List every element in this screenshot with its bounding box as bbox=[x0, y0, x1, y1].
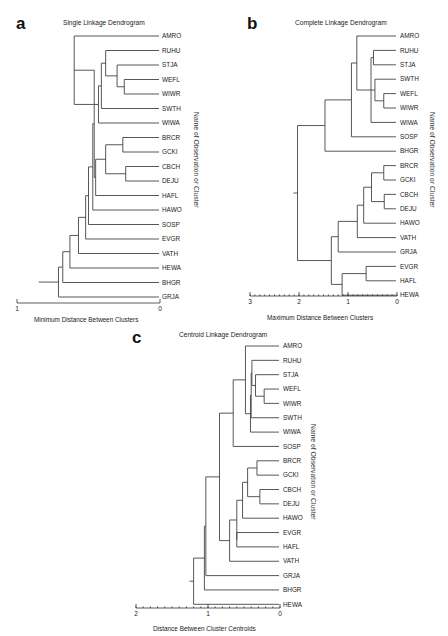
leaf-label: CBCH bbox=[400, 191, 418, 198]
leaf-label: SOSP bbox=[283, 443, 301, 450]
leaf-label: CBCH bbox=[162, 163, 180, 170]
leaf-label: WEFL bbox=[283, 385, 301, 392]
leaf-label: GCKI bbox=[283, 471, 299, 478]
leaf-label: WIWR bbox=[162, 90, 181, 97]
tick-label: 2 bbox=[297, 298, 301, 305]
panel-b-tree: AMRORUHUSTJASWTHWEFLWIWRWIWASOSPBHGRBRCR… bbox=[294, 32, 420, 298]
leaf-label: HAWO bbox=[162, 206, 182, 213]
leaf-label: HAFL bbox=[283, 543, 300, 550]
leaf-label: EVGR bbox=[283, 529, 301, 536]
leaf-label: SOSP bbox=[400, 133, 418, 140]
leaf-label: STJA bbox=[283, 371, 299, 378]
panel-a: a Single Linkage Dendrogram AMRORUHUSTJA… bbox=[15, 14, 200, 323]
panel-letter-b: b bbox=[247, 14, 257, 33]
leaf-label: HEWA bbox=[162, 264, 182, 271]
leaf-label: HAWO bbox=[283, 514, 303, 521]
leaf-label: SWTH bbox=[400, 75, 419, 82]
leaf-label: BHGR bbox=[283, 586, 302, 593]
leaf-label: STJA bbox=[162, 61, 178, 68]
leaf-label: WIWR bbox=[283, 400, 302, 407]
leaf-label: HEWA bbox=[400, 291, 420, 298]
panel-c-x-axis-label: Distance Between Cluster Centroids bbox=[153, 625, 256, 632]
leaf-label: BRCR bbox=[283, 457, 301, 464]
leaf-label: RUHU bbox=[400, 47, 419, 54]
leaf-label: BRCR bbox=[162, 134, 180, 141]
leaf-label: RUHU bbox=[283, 357, 302, 364]
leaf-label: SWTH bbox=[162, 105, 181, 112]
panel-b-y-axis-label: Name of Observation or Cluster bbox=[429, 112, 436, 208]
leaf-label: WIWR bbox=[400, 104, 419, 111]
leaf-label: EVGR bbox=[162, 235, 180, 242]
panel-a-x-axis: 10 bbox=[15, 299, 162, 312]
leaf-label: DEJU bbox=[400, 205, 417, 212]
panel-b-title: Complete Linkage Dendrogram bbox=[295, 19, 387, 27]
leaf-label: HEWA bbox=[283, 601, 303, 608]
leaf-label: EVGR bbox=[400, 263, 418, 270]
panel-b-x-axis-label: Maximum Distance Between Clusters bbox=[267, 314, 373, 321]
leaf-label: WIWA bbox=[400, 119, 419, 126]
leaf-label: CBCH bbox=[283, 486, 301, 493]
panel-c-x-axis: 210 bbox=[134, 604, 282, 617]
panel-b-x-axis: 3210 bbox=[248, 292, 399, 305]
tick-label: 0 bbox=[278, 610, 282, 617]
leaf-label: HAWO bbox=[400, 219, 420, 226]
leaf-label: GRJA bbox=[162, 293, 180, 300]
leaf-label: BHGR bbox=[162, 279, 181, 286]
leaf-label: HAFL bbox=[400, 277, 417, 284]
leaf-label: GRJA bbox=[283, 572, 301, 579]
leaf-label: VATH bbox=[400, 234, 416, 241]
leaf-label: BHGR bbox=[400, 147, 419, 154]
panel-a-y-axis-label: Name of Observation or Cluster bbox=[193, 112, 200, 208]
leaf-label: GCKI bbox=[400, 176, 416, 183]
leaf-label: GCKI bbox=[162, 148, 178, 155]
leaf-label: WIWA bbox=[162, 119, 181, 126]
panel-c-title: Centroid Linkage Dendrogram bbox=[179, 331, 268, 339]
leaf-label: AMRO bbox=[400, 32, 419, 39]
leaf-label: DEJU bbox=[162, 177, 179, 184]
panel-letter-a: a bbox=[16, 14, 26, 33]
leaf-label: WEFL bbox=[400, 90, 418, 97]
tick-label: 1 bbox=[206, 610, 210, 617]
leaf-label: VATH bbox=[283, 557, 299, 564]
tick-label: 1 bbox=[346, 298, 350, 305]
panel-b: b Complete Linkage Dendrogram AMRORUHUST… bbox=[247, 14, 436, 321]
tick-label: 0 bbox=[395, 298, 399, 305]
tick-label: 0 bbox=[158, 305, 162, 312]
panel-a-x-axis-label: Minimum Distance Between Clusters bbox=[34, 316, 138, 323]
leaf-label: GRJA bbox=[400, 248, 418, 255]
panel-c-y-axis-label: Name of Observation or Cluster bbox=[310, 424, 317, 520]
leaf-label: AMRO bbox=[283, 342, 302, 349]
panel-c-tree: AMRORUHUSTJAWEFLWIWRSWTHWIWASOSPBRCRGCKI… bbox=[190, 342, 303, 607]
leaf-label: SOSP bbox=[162, 221, 180, 228]
leaf-label: AMRO bbox=[162, 32, 181, 39]
leaf-label: WIWA bbox=[283, 428, 302, 435]
tick-label: 2 bbox=[134, 610, 138, 617]
panel-letter-c: c bbox=[132, 328, 141, 347]
tick-label: 1 bbox=[15, 305, 19, 312]
dendrogram-figure: a Single Linkage Dendrogram AMRORUHUSTJA… bbox=[0, 0, 448, 636]
leaf-label: HAFL bbox=[162, 192, 179, 199]
panel-c: c Centroid Linkage Dendrogram AMRORUHUST… bbox=[132, 328, 317, 632]
leaf-label: DEJU bbox=[283, 500, 300, 507]
panel-a-tree: AMRORUHUSTJAWEFLWIWRSWTHWIWABRCRGCKICBCH… bbox=[39, 32, 182, 300]
leaf-label: SWTH bbox=[283, 414, 302, 421]
leaf-label: WEFL bbox=[162, 76, 180, 83]
leaf-label: BRCR bbox=[400, 162, 418, 169]
leaf-label: VATH bbox=[162, 250, 178, 257]
leaf-label: STJA bbox=[400, 61, 416, 68]
panel-a-title: Single Linkage Dendrogram bbox=[63, 19, 145, 27]
leaf-label: RUHU bbox=[162, 47, 181, 54]
tick-label: 3 bbox=[248, 298, 252, 305]
